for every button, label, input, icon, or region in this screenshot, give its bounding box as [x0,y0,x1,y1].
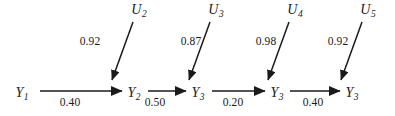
edges-group [40,22,362,91]
node-u4: U4 [287,3,302,19]
node-y2-base: Y [127,85,135,100]
path-diagram: Y1Y2Y3Y3Y3U2U3U4U5 0.400.500.200.400.920… [0,0,395,116]
node-y5: Y3 [345,86,358,102]
node-u2-base: U [131,2,141,17]
edge-arrow-u5-to-y5 [341,22,362,80]
node-u2: U2 [131,3,146,19]
edge-coefficient-y2-to-y3: 0.50 [145,97,166,109]
node-y3-subscript: 3 [199,92,204,102]
node-y1-subscript: 1 [23,92,28,102]
edge-coefficient-u4-to-y4: 0.98 [256,36,277,48]
node-y4: Y3 [270,86,283,102]
edge-coefficient-y1-to-y2: 0.40 [60,97,81,109]
edge-arrow-u2-to-y2 [112,22,133,80]
node-y4-subscript: 3 [278,92,283,102]
node-y1-base: Y [15,85,23,100]
edge-arrow-u4-to-y4 [268,22,289,80]
node-y2-subscript: 2 [135,92,140,102]
node-y5-subscript: 3 [353,92,358,102]
node-y3: Y3 [191,86,204,102]
edge-coefficient-u5-to-y5: 0.92 [328,36,349,48]
node-y4-base: Y [270,85,278,100]
edge-coefficient-u2-to-y2: 0.92 [80,36,101,48]
node-u4-subscript: 4 [297,9,302,19]
node-u3-subscript: 3 [218,9,223,19]
node-y3-base: Y [191,85,199,100]
node-y2: Y2 [127,86,140,102]
node-y5-base: Y [345,85,353,100]
node-u3-base: U [208,2,218,17]
edge-coefficient-u3-to-y3: 0.87 [181,36,202,48]
edge-coefficient-y3-to-y4: 0.20 [223,97,244,109]
edge-arrow-u3-to-y3 [189,22,210,80]
node-u5: U5 [360,3,375,19]
node-u5-base: U [360,2,370,17]
edge-coefficient-y4-to-y5: 0.40 [303,97,324,109]
node-u3: U3 [208,3,223,19]
node-y1: Y1 [15,86,28,102]
node-u4-base: U [287,2,297,17]
node-u2-subscript: 2 [141,9,146,19]
node-u5-subscript: 5 [370,9,375,19]
